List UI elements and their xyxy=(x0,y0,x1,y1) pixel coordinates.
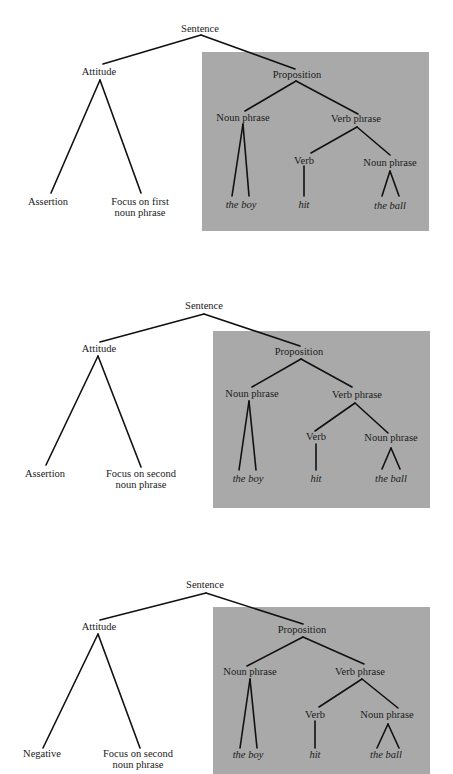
verb-phrase-label: Verb phrase xyxy=(332,389,382,400)
attitude-label: Attitude xyxy=(82,621,117,632)
noun-phrase-label: Noun phrase xyxy=(223,666,277,677)
verb-phrase-label: Verb phrase xyxy=(335,666,385,677)
attitude-right-label: Focus on second xyxy=(106,468,177,479)
edge xyxy=(98,634,140,748)
attitude-right-label-2: noun phrase xyxy=(115,479,166,490)
tree-2: Sentence Attitude Assertion Focus on sec… xyxy=(25,300,430,508)
root-label: Sentence xyxy=(185,300,223,311)
object-noun-phrase-label: Noun phrase xyxy=(363,157,417,168)
attitude-right-label-2: noun phrase xyxy=(112,759,163,770)
leaf-hit: hit xyxy=(298,199,310,210)
leaf-hit: hit xyxy=(310,473,322,484)
proposition-label: Proposition xyxy=(273,69,322,80)
verb-label: Verb xyxy=(306,431,326,442)
root-label: Sentence xyxy=(186,579,224,590)
noun-phrase-label: Noun phrase xyxy=(216,112,270,123)
verb-label: Verb xyxy=(305,709,325,720)
attitude-left-label: Assertion xyxy=(25,468,66,479)
leaf-the-boy: the boy xyxy=(233,749,264,760)
tree-3: Sentence Attitude Negative Focus on seco… xyxy=(23,579,430,774)
edge xyxy=(100,80,141,193)
leaf-the-ball: the ball xyxy=(374,200,406,211)
leaf-the-boy: the boy xyxy=(226,199,257,210)
object-noun-phrase-label: Noun phrase xyxy=(364,432,418,443)
attitude-label: Attitude xyxy=(82,66,117,77)
attitude-left-label: Assertion xyxy=(28,196,69,207)
tree-diagrams: Sentence Attitude Assertion Focus on fir… xyxy=(0,0,453,774)
attitude-label: Attitude xyxy=(82,343,117,354)
verb-phrase-label: Verb phrase xyxy=(331,113,381,124)
leaf-the-ball: the ball xyxy=(370,749,402,760)
attitude-left-label: Negative xyxy=(23,748,61,759)
leaf-the-boy: the boy xyxy=(233,473,264,484)
noun-phrase-label: Noun phrase xyxy=(225,388,279,399)
edge xyxy=(43,634,98,748)
proposition-label: Proposition xyxy=(278,624,327,635)
attitude-right-label: Focus on second xyxy=(103,748,174,759)
verb-label: Verb xyxy=(294,155,314,166)
proposition-label: Proposition xyxy=(275,346,324,357)
object-noun-phrase-label: Noun phrase xyxy=(360,709,414,720)
edge xyxy=(100,593,206,620)
attitude-right-label-2: noun phrase xyxy=(114,207,165,218)
leaf-the-ball: the ball xyxy=(375,473,407,484)
attitude-right-label: Focus on first xyxy=(111,196,169,207)
root-label: Sentence xyxy=(181,23,219,34)
edge xyxy=(100,314,204,342)
edge xyxy=(46,356,98,465)
edge xyxy=(103,35,201,64)
edge xyxy=(98,356,141,467)
tree-1: Sentence Attitude Assertion Focus on fir… xyxy=(28,23,429,231)
leaf-hit: hit xyxy=(309,749,321,760)
edge xyxy=(51,80,100,193)
